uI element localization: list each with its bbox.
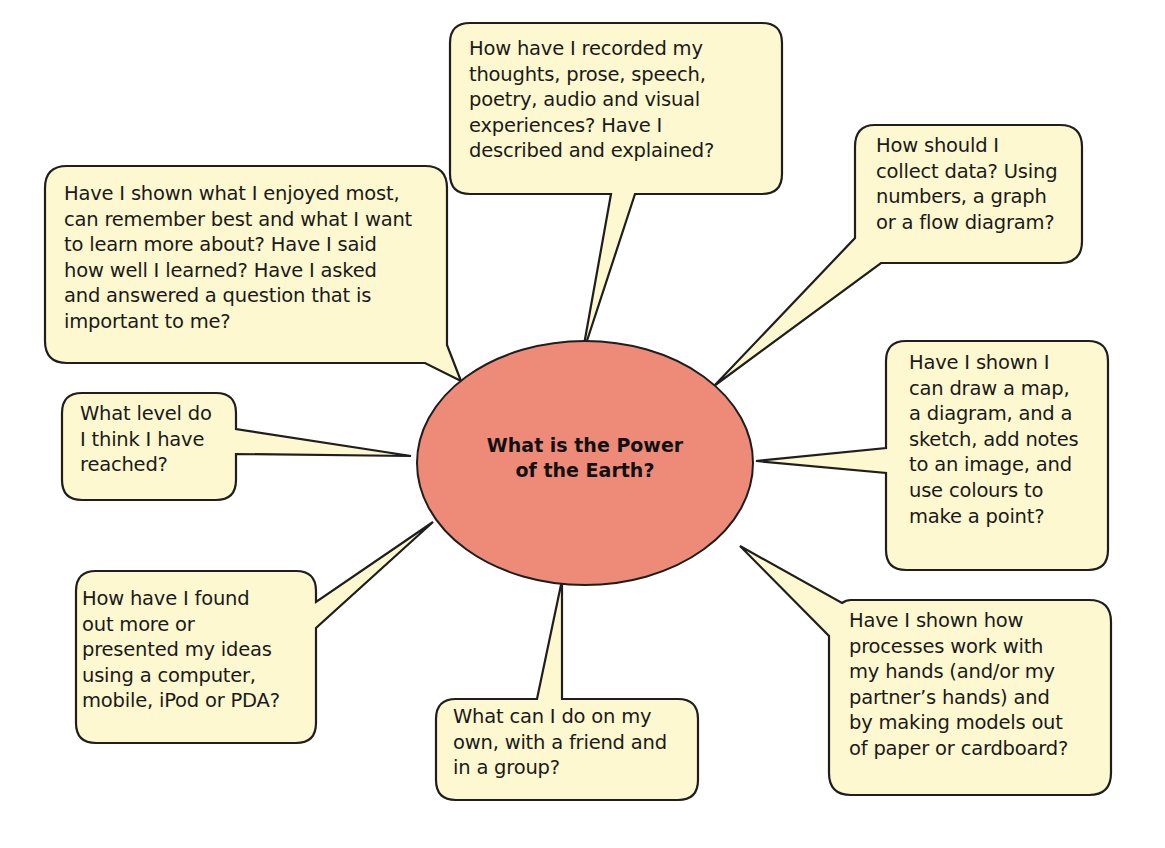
bubble-level-text: What level do I think I have reached? xyxy=(80,401,212,478)
bubble-own-friend-group-text: What can I do on my own, with a friend a… xyxy=(453,704,667,781)
bubble-hands-models-text: Have I shown how processes work with my … xyxy=(849,608,1068,762)
bubble-computer-text: How have I found out more or presented m… xyxy=(82,586,280,714)
central-topic-label: What is the Power of the Earth? xyxy=(450,433,720,483)
bubble-recording-text: How have I recorded my thoughts, prose, … xyxy=(469,36,714,164)
bubble-draw-map-text: Have I shown I can draw a map, a diagram… xyxy=(909,350,1078,529)
bubble-collect-data-text: How should I collect data? Using numbers… xyxy=(876,133,1057,235)
bubble-enjoyed-most-text: Have I shown what I enjoyed most, can re… xyxy=(64,181,412,335)
